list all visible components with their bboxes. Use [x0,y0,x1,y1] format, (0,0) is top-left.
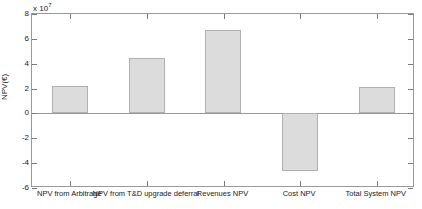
x-axis-tick-top [300,14,301,19]
y-axis-tick-right [408,163,413,164]
bar-4 [282,113,318,171]
zero-reference-line [32,113,413,114]
x-axis-tick-bottom [70,181,71,186]
y-axis-tick-label: -4 [22,159,29,167]
bar-2 [129,58,165,114]
y-axis-title: NPV(€) [1,74,9,100]
y-axis-tick [32,163,37,164]
y-axis-tick-right [408,89,413,90]
y-axis-tick [32,14,37,15]
x-axis-tick-top [377,14,378,19]
y-axis-tick [32,64,37,65]
y-axis-tick-right [408,14,413,15]
plot-area: 86420-2-4-6 [31,13,414,187]
y-axis-tick-label: -6 [22,184,29,192]
x-axis-tick-top [70,14,71,19]
x-axis-tick-label: Cost NPV [283,190,316,198]
x-axis-tick-label: Total System NPV [345,190,405,198]
x-axis-tick-label: NPV from T&D upgrade deferral [93,190,200,198]
y-axis-tick-label: 8 [25,10,29,18]
y-axis-tick-right [408,188,413,189]
bar-1 [52,86,88,113]
x-axis-tick-bottom [224,181,225,186]
y-axis-exponent-mantissa: x 10 [33,4,48,13]
y-axis-tick [32,39,37,40]
y-axis-tick-label: 2 [25,85,29,93]
y-axis-exponent-label: x 107 [33,2,51,13]
y-axis-tick [32,113,37,114]
x-axis-tick-top [224,14,225,19]
npv-bar-chart-figure: x 107 NPV(€) 86420-2-4-6 NPV from Arbitr… [0,0,422,209]
y-axis-tick-right [408,39,413,40]
x-axis-tick-bottom [377,181,378,186]
y-axis-exponent-power: 7 [48,2,51,8]
bar-3 [205,30,241,113]
y-axis-tick-label: -2 [22,134,29,142]
y-axis-tick [32,138,37,139]
x-axis-tick-label: Revenues NPV [197,190,248,198]
y-axis-tick-right [408,64,413,65]
y-axis-tick-label: 4 [25,60,29,68]
bar-5 [359,87,395,113]
x-axis-tick-top [147,14,148,19]
y-axis-tick-right [408,138,413,139]
x-axis-tick-bottom [147,181,148,186]
y-axis-tick-right [408,113,413,114]
x-axis-tick-bottom [300,181,301,186]
y-axis-tick-label: 6 [25,35,29,43]
y-axis-tick-label: 0 [25,109,29,117]
y-axis-tick [32,89,37,90]
